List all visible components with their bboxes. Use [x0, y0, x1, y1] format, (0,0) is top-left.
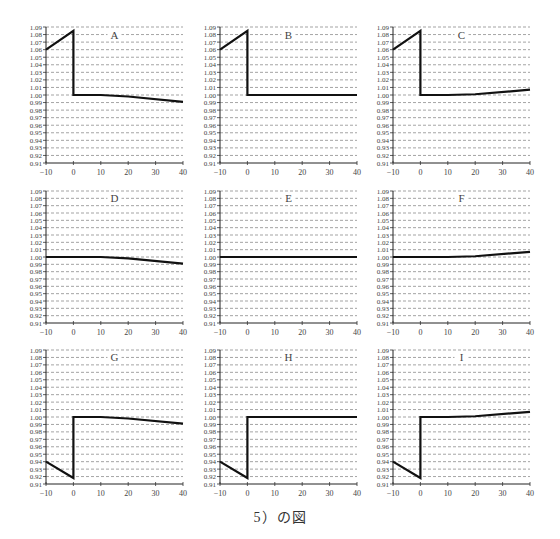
y-tick-label: 1.07 — [30, 361, 43, 369]
chart-panel-e: 0.910.920.930.940.950.960.970.980.991.00… — [174, 187, 363, 347]
y-tick-label: 1.02 — [377, 239, 390, 247]
y-tick-label: 1.08 — [377, 354, 390, 362]
x-tick-label: 30 — [152, 328, 160, 337]
y-tick-label: 1.01 — [30, 406, 43, 414]
y-tick-label: 0.96 — [204, 443, 217, 451]
y-tick-label: 0.98 — [30, 428, 43, 436]
chart-panel-f: 0.910.920.930.940.950.960.970.980.991.00… — [347, 187, 536, 347]
chart-panel-c: 0.910.920.930.940.950.960.970.980.991.00… — [347, 23, 536, 187]
y-tick-label: 0.94 — [204, 137, 217, 145]
chart-panel-a: 0.910.920.930.940.950.960.970.980.991.00… — [0, 23, 189, 187]
data-line — [46, 257, 183, 264]
y-tick-label: 1.09 — [30, 347, 43, 355]
x-tick-label: 10 — [444, 489, 452, 498]
x-tick-label: −10 — [214, 489, 227, 498]
x-tick-label: −10 — [387, 328, 400, 337]
y-tick-label: 1.03 — [30, 69, 43, 77]
panel-title: G — [111, 351, 119, 363]
x-tick-label: 30 — [499, 489, 507, 498]
y-tick-label: 1.07 — [204, 202, 217, 210]
x-tick-label: 0 — [418, 489, 422, 498]
y-tick-label: 1.09 — [377, 24, 390, 32]
y-tick-label: 1.02 — [30, 76, 43, 84]
y-tick-label: 0.96 — [204, 122, 217, 130]
y-tick-label: 1.09 — [377, 347, 390, 355]
x-tick-label: 20 — [298, 168, 306, 177]
chart-panel-g: 0.910.920.930.940.950.960.970.980.991.00… — [0, 346, 189, 508]
y-tick-label: 0.91 — [377, 320, 390, 328]
y-tick-label: 0.91 — [377, 481, 390, 489]
y-tick-label: 1.05 — [377, 376, 390, 384]
y-tick-label: 1.06 — [204, 46, 217, 54]
y-tick-label: 1.01 — [204, 246, 217, 254]
y-tick-label: 1.03 — [30, 391, 43, 399]
y-tick-label: 1.03 — [30, 232, 43, 240]
y-tick-label: 1.02 — [204, 399, 217, 407]
y-tick-label: 0.91 — [30, 160, 43, 168]
y-tick-label: 0.98 — [204, 268, 217, 276]
y-tick-label: 1.01 — [204, 84, 217, 92]
x-tick-label: −10 — [387, 489, 400, 498]
y-tick-label: 0.99 — [377, 99, 390, 107]
y-tick-label: 1.02 — [377, 399, 390, 407]
y-tick-label: 1.03 — [377, 391, 390, 399]
x-tick-label: 20 — [124, 328, 132, 337]
y-tick-label: 1.06 — [30, 46, 43, 54]
y-tick-label: 0.96 — [30, 443, 43, 451]
y-tick-label: 0.93 — [377, 305, 390, 313]
y-tick-label: 1.05 — [204, 376, 217, 384]
x-tick-label: 0 — [245, 168, 249, 177]
x-tick-label: 20 — [471, 168, 479, 177]
x-tick-label: −10 — [40, 328, 53, 337]
panel-title: D — [111, 192, 119, 204]
panel-title: I — [460, 351, 464, 363]
y-tick-label: 0.94 — [30, 298, 43, 306]
y-tick-label: 1.07 — [377, 202, 390, 210]
y-tick-label: 0.93 — [204, 305, 217, 313]
y-tick-label: 0.99 — [30, 421, 43, 429]
x-tick-label: 0 — [418, 328, 422, 337]
y-tick-label: 1.06 — [30, 210, 43, 218]
x-tick-label: −10 — [214, 168, 227, 177]
x-tick-label: 40 — [526, 168, 534, 177]
y-tick-label: 0.97 — [377, 436, 390, 444]
y-tick-label: 1.08 — [377, 31, 390, 39]
y-tick-label: 1.05 — [30, 54, 43, 62]
y-tick-label: 1.05 — [377, 217, 390, 225]
y-tick-label: 0.92 — [30, 312, 43, 320]
y-tick-label: 0.99 — [204, 261, 217, 269]
y-tick-label: 0.94 — [377, 298, 390, 306]
x-tick-label: 10 — [444, 168, 452, 177]
x-tick-label: 40 — [526, 328, 534, 337]
x-tick-label: 10 — [97, 489, 105, 498]
y-tick-label: 1.09 — [204, 347, 217, 355]
y-tick-label: 1.02 — [30, 239, 43, 247]
chart-panel-b: 0.910.920.930.940.950.960.970.980.991.00… — [174, 23, 363, 187]
y-tick-label: 1.07 — [30, 39, 43, 47]
y-tick-label: 0.92 — [204, 312, 217, 320]
y-tick-label: 1.04 — [30, 61, 43, 69]
x-tick-label: 20 — [124, 489, 132, 498]
y-tick-label: 1.03 — [204, 391, 217, 399]
y-tick-label: 1.01 — [30, 84, 43, 92]
y-tick-label: 0.96 — [204, 283, 217, 291]
x-tick-label: 0 — [71, 168, 75, 177]
x-tick-label: −10 — [387, 168, 400, 177]
y-tick-label: 1.01 — [377, 84, 390, 92]
panel-title: C — [458, 29, 465, 41]
chart-panel-i: 0.910.920.930.940.950.960.970.980.991.00… — [347, 346, 536, 508]
figure-caption: 5）の図 — [0, 506, 560, 526]
y-tick-label: 0.97 — [377, 276, 390, 284]
y-tick-label: 0.93 — [204, 144, 217, 152]
y-tick-label: 1.08 — [30, 354, 43, 362]
y-tick-label: 1.04 — [377, 384, 390, 392]
panel-title: B — [285, 29, 292, 41]
y-tick-label: 1.00 — [204, 92, 217, 100]
y-tick-label: 1.02 — [204, 239, 217, 247]
y-tick-label: 0.95 — [30, 290, 43, 298]
y-tick-label: 1.09 — [30, 24, 43, 32]
y-tick-label: 1.08 — [204, 354, 217, 362]
y-tick-label: 0.94 — [377, 458, 390, 466]
y-tick-label: 0.99 — [377, 421, 390, 429]
y-tick-label: 1.04 — [204, 384, 217, 392]
